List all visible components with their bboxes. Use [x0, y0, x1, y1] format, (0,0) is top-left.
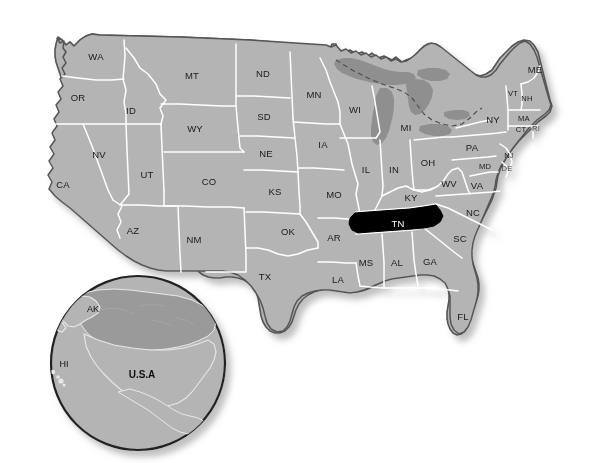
state-label-nh: NH	[521, 94, 532, 103]
state-label-ga: GA	[423, 256, 438, 267]
state-label-ia: IA	[318, 139, 328, 150]
state-label-nc: NC	[466, 207, 480, 218]
inset-label-usa: U.S.A	[129, 369, 156, 380]
us-map-figure: WAORCAIDNVUTAZMTWYCONMNDSDNEKSOKTXMNIAMO…	[0, 0, 592, 463]
state-label-tn[interactable]: TN	[391, 218, 404, 229]
state-label-la: LA	[332, 274, 344, 285]
inset-label-ak: AK	[87, 304, 99, 314]
state-label-de: DE	[502, 164, 513, 173]
state-label-az: AZ	[127, 225, 140, 236]
state-label-sd: SD	[257, 111, 271, 122]
state-label-ar: AR	[327, 232, 341, 243]
inset-label-hi: HI	[60, 359, 69, 369]
state-label-ri: RI	[532, 124, 540, 133]
state-label-il: IL	[362, 164, 370, 175]
state-label-wy: WY	[187, 123, 203, 134]
inset-globe: AKHIU.S.A	[51, 276, 225, 450]
state-label-wa: WA	[88, 51, 104, 62]
state-label-va: VA	[471, 180, 484, 191]
state-label-pa: PA	[466, 142, 479, 153]
state-label-nm: NM	[186, 234, 201, 245]
state-label-wv: WV	[441, 178, 457, 189]
state-label-nv: NV	[92, 149, 106, 160]
state-label-ok: OK	[281, 226, 296, 237]
state-label-ne: NE	[259, 148, 273, 159]
state-label-co: CO	[202, 176, 217, 187]
state-label-wi: WI	[349, 104, 361, 115]
state-label-vt: VT	[508, 89, 518, 98]
state-label-ks: KS	[268, 186, 281, 197]
state-label-tx: TX	[259, 271, 272, 282]
state-label-md: MD	[479, 162, 492, 171]
state-label-ky: KY	[404, 192, 418, 203]
state-label-nj: NJ	[504, 151, 514, 160]
state-label-mo: MO	[326, 189, 342, 200]
us-map-svg: WAORCAIDNVUTAZMTWYCONMNDSDNEKSOKTXMNIAMO…	[0, 0, 592, 463]
state-label-mn: MN	[306, 89, 321, 100]
state-label-ny: NY	[486, 114, 500, 125]
state-label-in: IN	[389, 164, 399, 175]
state-label-id: ID	[126, 105, 136, 116]
state-label-or: OR	[71, 92, 86, 103]
state-label-ms: MS	[359, 257, 374, 268]
state-label-nd: ND	[256, 68, 270, 79]
state-label-ct: CT	[516, 125, 527, 134]
state-label-ma: MA	[518, 114, 531, 123]
state-label-ca: CA	[56, 179, 70, 190]
state-label-fl: FL	[457, 311, 469, 322]
state-label-al: AL	[391, 257, 403, 268]
state-label-sc: SC	[453, 233, 467, 244]
state-label-ut: UT	[140, 169, 153, 180]
state-label-mt: MT	[185, 70, 199, 81]
state-label-oh: OH	[421, 157, 436, 168]
state-label-mi: MI	[401, 122, 412, 133]
state-label-me: ME	[528, 64, 543, 75]
